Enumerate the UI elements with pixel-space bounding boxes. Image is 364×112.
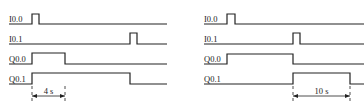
waveform xyxy=(204,73,364,84)
signal-label: Q0.1 xyxy=(9,74,26,84)
right-timing-diagram: I0.0I0.1Q0.0Q0.110 s xyxy=(204,14,364,105)
timing-diagrams: I0.0I0.1Q0.0Q0.14 sI0.0I0.1Q0.0Q0.110 s xyxy=(0,0,364,112)
signal-q0-1: Q0.1 xyxy=(9,73,167,84)
waveform xyxy=(9,53,167,64)
left-timing-diagram: I0.0I0.1Q0.0Q0.14 s xyxy=(9,14,167,105)
signal-label: I0.1 xyxy=(9,34,22,44)
signal-i0-1: I0.1 xyxy=(9,33,167,44)
waveform xyxy=(9,73,167,84)
waveform xyxy=(204,54,364,64)
waveform xyxy=(204,33,364,44)
signal-q0-0: Q0.0 xyxy=(204,54,364,65)
arrow-left-icon xyxy=(32,94,37,98)
signal-q0-0: Q0.0 xyxy=(9,53,167,64)
signal-label: I0.1 xyxy=(204,34,217,44)
signal-q0-1: Q0.1 xyxy=(204,73,364,84)
signal-label: I0.0 xyxy=(9,14,22,24)
signal-i0-1: I0.1 xyxy=(204,33,364,44)
waveform xyxy=(9,33,167,44)
signal-label: Q0.0 xyxy=(204,54,221,64)
time-dimension: 10 s xyxy=(293,86,350,105)
signal-i0-0: I0.0 xyxy=(204,14,364,25)
signal-label: Q0.1 xyxy=(204,74,221,84)
waveform xyxy=(9,14,167,24)
time-dimension: 4 s xyxy=(32,86,65,105)
dimension-label: 10 s xyxy=(315,86,329,96)
signal-i0-0: I0.0 xyxy=(9,14,167,25)
signal-label: I0.0 xyxy=(204,14,217,24)
arrow-right-icon xyxy=(345,94,350,98)
arrow-left-icon xyxy=(293,94,298,98)
dimension-label: 4 s xyxy=(44,86,54,96)
waveform xyxy=(204,14,364,24)
signal-label: Q0.0 xyxy=(9,54,26,64)
arrow-right-icon xyxy=(60,94,65,98)
